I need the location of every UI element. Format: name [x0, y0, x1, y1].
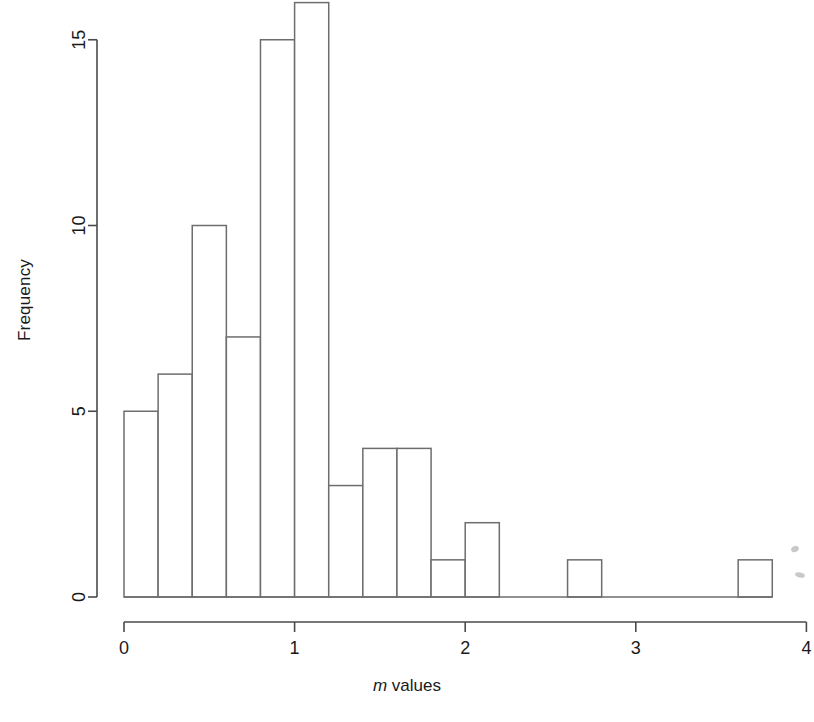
y-axis-tick-label: 15 [69, 30, 89, 50]
x-axis-tick-label: 2 [460, 638, 470, 658]
histogram-bar [124, 411, 158, 597]
x-axis-tick-label: 1 [290, 638, 300, 658]
plot-canvas: 051015 01234 [0, 0, 814, 722]
histogram-figure: Frequency 051015 01234 m values [0, 0, 814, 722]
histogram-bar [329, 486, 363, 597]
histogram-bar [363, 448, 397, 597]
histogram-bar [260, 40, 294, 597]
scan-artifacts [790, 545, 805, 579]
histogram-bar [738, 560, 772, 597]
histogram-bar [397, 448, 431, 597]
histogram-bar [295, 3, 329, 597]
histogram-bar [158, 374, 192, 597]
histogram-bar [465, 523, 499, 597]
bars-group [124, 3, 772, 597]
artifact-speck [790, 545, 800, 554]
x-axis-tick-label: 3 [631, 638, 641, 658]
y-axis-tick-label: 5 [69, 406, 89, 416]
x-axis-tick-label: 0 [119, 638, 129, 658]
x-axis-title: m values [0, 676, 814, 696]
y-axis-tick-label: 0 [69, 592, 89, 602]
y-axis: 051015 [69, 30, 97, 602]
histogram-bar [192, 226, 226, 598]
artifact-speck [795, 571, 806, 578]
histogram-bar [431, 560, 465, 597]
y-axis-tick-label: 10 [69, 215, 89, 235]
x-axis: 01234 [119, 622, 811, 658]
x-axis-tick-label: 4 [801, 638, 811, 658]
x-axis-title-rest: values [387, 676, 441, 695]
histogram-bar [568, 560, 602, 597]
x-axis-title-italic: m [373, 676, 387, 695]
histogram-bar [226, 337, 260, 597]
